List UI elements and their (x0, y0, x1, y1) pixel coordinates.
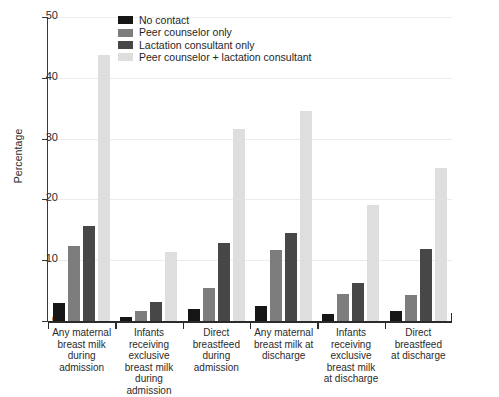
x-axis-label-line: breastfeed (183, 339, 250, 351)
bar (255, 306, 267, 321)
legend-item: No contact (118, 14, 311, 26)
bar (352, 283, 364, 321)
x-axis-label: Any maternalbreast milk atdischarge (250, 327, 317, 362)
bar-group (317, 17, 384, 321)
x-axis-label-line: Infants (115, 327, 182, 339)
x-axis-label-line: breast milk (115, 362, 182, 374)
x-axis-label-line: breastfeed (385, 339, 452, 351)
x-axis-label: Any maternalbreast milkduringadmission (48, 327, 115, 373)
x-axis-label: Infantsreceivingexclusivebreast milkat d… (317, 327, 384, 385)
bar (367, 205, 379, 321)
bar (83, 226, 95, 321)
x-axis-label-line: during (48, 350, 115, 362)
legend-label: Lactation consultant only (139, 39, 255, 51)
bar (390, 311, 402, 321)
x-axis-label-line: Infants (317, 327, 384, 339)
x-axis-label-line: admission (183, 362, 250, 374)
x-axis-label-line: at discharge (385, 350, 452, 362)
x-axis-label-line: receiving (115, 339, 182, 351)
x-axis-label-line: breast milk at (250, 339, 317, 351)
x-axis-label-line: during (183, 350, 250, 362)
bar (300, 111, 312, 321)
x-axis-label-line: Direct (385, 327, 452, 339)
bar (420, 249, 432, 321)
legend-item: Lactation consultant only (118, 39, 311, 51)
bar (150, 302, 162, 321)
x-axis-label-line: breast milk (48, 339, 115, 351)
x-axis-label: Infantsreceivingexclusivebreast milkduri… (115, 327, 182, 397)
y-axis-title: Percentage (12, 76, 24, 236)
legend-item: Peer counselor + lactation consultant (118, 51, 311, 63)
bar (285, 233, 297, 321)
x-axis-label-line: breast milk (317, 362, 384, 374)
legend-item: Peer counselor only (118, 26, 311, 38)
legend-swatch-icon (118, 41, 133, 49)
bar (188, 309, 200, 321)
bar (322, 314, 334, 321)
x-axis-label-line: admission (48, 362, 115, 374)
legend-label: Peer counselor + lactation consultant (139, 51, 311, 63)
x-axis-label-line: Any maternal (250, 327, 317, 339)
legend: No contactPeer counselor onlyLactation c… (118, 14, 311, 64)
bar (120, 317, 132, 321)
bar (337, 294, 349, 321)
x-axis-label-line: Direct (183, 327, 250, 339)
bar (98, 55, 110, 321)
bar (165, 252, 177, 321)
bar (203, 288, 215, 321)
bar-chart: Percentage 01020304050 Any maternalbreas… (0, 0, 499, 397)
bar (135, 311, 147, 321)
x-axis-label-line: during (115, 373, 182, 385)
bar (270, 250, 282, 321)
x-axis-label-line: admission (115, 385, 182, 397)
x-axis-label-line: exclusive (317, 350, 384, 362)
legend-swatch-icon (118, 53, 133, 61)
x-axis-label: Directbreastfeedduringadmission (183, 327, 250, 373)
bar (435, 168, 447, 321)
legend-swatch-icon (118, 16, 133, 24)
x-axis-label-line: receiving (317, 339, 384, 351)
x-axis-label: Directbreastfeedat discharge (385, 327, 452, 362)
x-axis-label-line: discharge (250, 350, 317, 362)
bar (233, 129, 245, 321)
x-axis-label-line: exclusive (115, 350, 182, 362)
x-axis-label-line: Any maternal (48, 327, 115, 339)
legend-swatch-icon (118, 29, 133, 37)
bar (218, 243, 230, 321)
legend-label: Peer counselor only (139, 26, 232, 38)
legend-label: No contact (139, 14, 189, 26)
bar (53, 303, 65, 321)
x-axis-label-line: at discharge (317, 373, 384, 385)
bar-group (48, 17, 115, 321)
bar (68, 246, 80, 321)
bar (405, 295, 417, 321)
bar-group (385, 17, 452, 321)
